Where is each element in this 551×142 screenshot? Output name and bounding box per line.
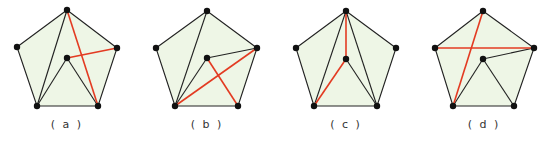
panel-d: ( d ) [432,8,537,131]
vertex-right [531,45,537,51]
vertex-top [64,7,70,13]
vertex-inner [343,56,349,62]
vertex-right [254,45,260,51]
vertex-left [432,45,438,51]
panel-label: ( b ) [191,118,224,131]
triangulation-figure: ( a ) ( b ) ( c ) ( d ) [0,0,551,142]
vertex-right [393,45,399,51]
panel-label: ( a ) [51,118,83,131]
vertex-br [511,103,517,109]
vertex-bl [172,103,178,109]
vertex-left [14,44,20,50]
panel-a: ( a ) [14,7,120,131]
vertex-br [374,103,380,109]
vertex-br [235,103,241,109]
vertex-left [293,45,299,51]
panel-b: ( b ) [153,8,260,131]
vertex-inner [204,55,210,61]
vertex-left [153,45,159,51]
vertex-top [204,8,210,14]
vertex-bl [34,103,40,109]
vertex-top [343,8,349,14]
vertex-bl [450,103,456,109]
vertex-inner [64,55,70,61]
vertex-right [114,45,120,51]
vertex-top [480,8,486,14]
panel-label: ( c ) [330,118,362,131]
vertex-inner [480,56,486,62]
panel-label: ( d ) [468,118,501,131]
vertex-br [95,103,101,109]
panel-c: ( c ) [293,8,399,131]
vertex-bl [311,103,317,109]
